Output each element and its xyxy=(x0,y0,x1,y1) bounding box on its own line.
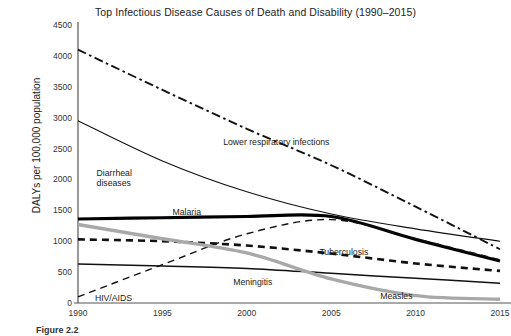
series-label-lower-respiratory-infections: Lower respiratory infections xyxy=(223,137,329,148)
figure-container: Top Infectious Disease Causes of Death a… xyxy=(0,0,511,336)
series-line-hiv-aids xyxy=(78,220,500,297)
series-label-measles: Measles xyxy=(380,291,412,302)
series-label-meningitis: Meningitis xyxy=(233,277,272,288)
series-label-malaria: Malaria xyxy=(173,207,202,218)
series-label-tuberculosis: Tuberculosis xyxy=(319,247,368,258)
figure-caption: Figure 2.2 xyxy=(36,325,79,335)
series-line-measles xyxy=(78,225,500,300)
series-line-malaria xyxy=(78,215,500,261)
series-label-diarrheal-diseases: Diarrheal diseases xyxy=(97,168,155,189)
series-label-hiv-aids: HIV/AIDS xyxy=(95,293,132,304)
